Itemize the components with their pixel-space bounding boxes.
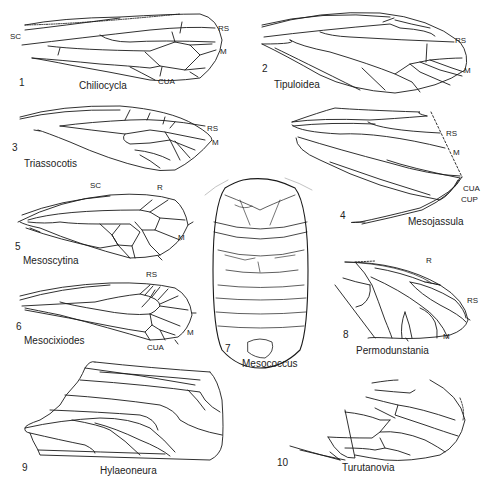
vein-label-m: M [178, 233, 185, 242]
vein-label-sc: SC [90, 181, 101, 190]
taxon-name-mesococcus: Mesococcus [242, 358, 298, 369]
vein-label-cua: CUA [158, 77, 175, 86]
taxon-name-turutanovia: Turutanovia [342, 462, 394, 473]
vein-label-rs: RS [467, 296, 478, 305]
vein-label-m: M [187, 328, 194, 337]
panel-number-4: 4 [340, 210, 346, 221]
taxon-name-permodunstania: Permodunstania [356, 345, 429, 356]
wing-9-hylaeoneura-drawing [25, 362, 223, 460]
vein-label-m: M [453, 148, 460, 157]
vein-label-m: M [464, 66, 471, 75]
vein-label-rs: RS [218, 24, 229, 33]
wing-4-mesojassula-drawing [292, 108, 462, 224]
vein-label-m: M [212, 138, 219, 147]
vein-label-r: R [157, 183, 163, 192]
wing-5-mesoscytina-drawing [18, 194, 193, 260]
panel-number-5: 5 [15, 241, 21, 252]
panel-number-6: 6 [16, 321, 22, 332]
wing-drawings [0, 0, 491, 485]
vein-label-cup: CUP [461, 195, 478, 204]
mesococcus-body-drawing [205, 178, 312, 368]
taxon-name-hylaeoneura: Hylaeoneura [100, 465, 157, 476]
vein-label-m: M [443, 332, 450, 341]
panel-number-1: 1 [19, 77, 25, 88]
wing-10-turutanovia-drawing [290, 380, 465, 460]
vein-label-sc: SC [10, 32, 21, 41]
wing-1-chiliocycla-drawing [22, 14, 222, 81]
panel-number-7: 7 [225, 343, 231, 354]
panel-number-3: 3 [12, 142, 18, 153]
vein-label-rs: RS [207, 124, 218, 133]
panel-number-2: 2 [262, 63, 268, 74]
vein-label-r: R [426, 256, 432, 265]
taxon-name-mesocixiodes: Mesocixiodes [24, 335, 85, 346]
vein-label-rs: RS [446, 129, 457, 138]
vein-label-rs: RS [455, 36, 466, 45]
taxon-name-chiliocycla: Chiliocycla [79, 80, 127, 91]
insect-wing-figure: 1 2 3 4 5 6 7 8 9 10 Chiliocycla Tipuloi… [0, 0, 491, 485]
taxon-name-mesoscytina: Mesoscytina [23, 255, 79, 266]
taxon-name-triassocotis: Triassocotis [24, 158, 77, 169]
vein-label-cua: CUA [147, 343, 164, 352]
vein-label-cua: CUA [463, 184, 480, 193]
panel-number-8: 8 [343, 329, 349, 340]
panel-number-9: 9 [22, 462, 28, 473]
vein-label-m: M [220, 47, 227, 56]
vein-label-rs: RS [146, 270, 157, 279]
panel-number-10: 10 [277, 457, 288, 468]
taxon-name-mesojassula: Mesojassula [408, 216, 464, 227]
wing-8-permodunstania-drawing [335, 261, 470, 341]
taxon-name-tipuloidea: Tipuloidea [274, 79, 320, 90]
